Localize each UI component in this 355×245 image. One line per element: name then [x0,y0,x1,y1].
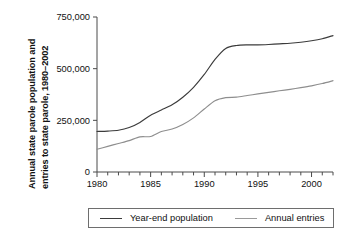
x-tick-label: 1985 [140,179,161,189]
series-lines [97,36,333,150]
series-line [97,36,333,132]
x-tick-label: 1995 [248,179,269,189]
x-tick-label: 2000 [301,179,322,189]
y-tick-label: 250,000 [56,116,90,126]
y-tick-label: 750,000 [56,12,90,22]
y-axis: 0250,000500,000750,000 [56,12,97,177]
legend-item-annual-entries: Annual entries [235,213,324,223]
x-tick-label: 1980 [87,179,108,189]
legend-label: Annual entries [265,213,324,223]
x-axis: 19801985199019952000 [87,172,333,189]
chart-figure: Annual state parole population and entri… [0,0,355,245]
legend-item-year-end-population: Year-end population [100,213,213,223]
legend-label: Year-end population [130,213,213,223]
y-tick-label: 500,000 [56,64,90,74]
y-tick-label: 0 [85,167,90,177]
legend-swatch-line-icon [235,218,257,219]
x-tick-label: 1990 [194,179,215,189]
chart-legend: Year-end population Annual entries [88,208,334,228]
legend-swatch-line-icon [100,218,122,219]
series-line [97,81,333,150]
